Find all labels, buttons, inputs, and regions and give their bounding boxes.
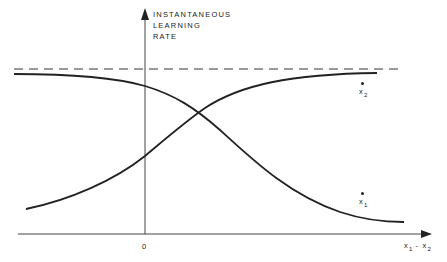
y-axis-label-line2: LEARNING: [153, 20, 231, 31]
x-axis-label-sub2: 2: [428, 246, 431, 252]
curve-x1-label: x1: [359, 196, 367, 208]
curve-x2: [26, 73, 377, 209]
curve-x1: [14, 74, 404, 222]
curve-x2-label-sub: 2: [364, 92, 367, 98]
y-axis-label-line3: RATE: [153, 31, 231, 42]
x-axis-label: x1 - x2: [404, 240, 431, 252]
origin-label: 0: [142, 241, 147, 252]
y-axis-label-line1: INSTANTANEOUS: [153, 9, 231, 20]
x1-dot-icon: [361, 192, 364, 195]
x-axis-label-minus: -: [412, 241, 422, 250]
y-axis-label: INSTANTANEOUS LEARNING RATE: [153, 9, 231, 42]
x-axis-label-sub1: 1: [409, 246, 412, 252]
x-axis-arrow-icon: [421, 230, 432, 238]
y-axis-arrow-icon: [141, 8, 149, 20]
curve-x1-label-sub: 1: [364, 202, 367, 208]
x-axis-label-x2: x: [423, 241, 428, 250]
curve-x2-label: x2: [359, 86, 367, 98]
x2-dot-icon: [361, 82, 364, 85]
